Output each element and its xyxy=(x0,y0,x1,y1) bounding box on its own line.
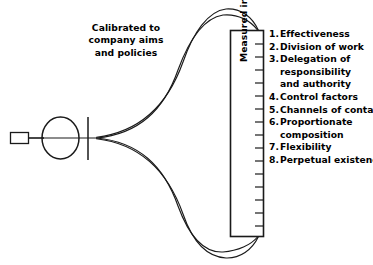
list-item-text: Delegation of responsibility and authori… xyxy=(280,53,373,91)
list-item-text: Proportionate composition xyxy=(280,116,373,141)
caption-line-3: and policies xyxy=(62,47,190,59)
list-item-text: Perpetual existence xyxy=(280,154,373,167)
list-item: 4. Control factors xyxy=(269,91,373,104)
list-item-text: Channels of contact xyxy=(280,104,373,117)
list-item-number: 7. xyxy=(269,141,280,154)
list-item-text: Effectiveness xyxy=(280,28,373,41)
list-item: 1. Effectiveness xyxy=(269,28,373,41)
list-item-text: Control factors xyxy=(280,91,373,104)
list-item-number: 2. xyxy=(269,41,280,54)
list-item: 2. Division of work xyxy=(269,41,373,54)
diagram-canvas: Calibrated to company aims and policies … xyxy=(0,0,373,265)
list-item: 6. Proportionate composition xyxy=(269,116,373,141)
list-item-number: 8. xyxy=(269,154,280,167)
list-item-number: 5. xyxy=(269,104,280,117)
list-item-text: Division of work xyxy=(280,41,373,54)
list-item-number: 4. xyxy=(269,91,280,104)
objectives-list: 1. Effectiveness 2. Division of work 3. … xyxy=(269,28,373,167)
list-item: 3. Delegation of responsibility and auth… xyxy=(269,53,373,91)
caption-block: Calibrated to company aims and policies xyxy=(62,22,190,59)
input-terminal-rect xyxy=(11,133,29,144)
list-item-text: Flexibility xyxy=(280,141,373,154)
list-item: 5. Channels of contact xyxy=(269,104,373,117)
list-item-number: 3. xyxy=(269,53,280,66)
list-item-number: 1. xyxy=(269,28,280,41)
list-item-number: 6. xyxy=(269,116,280,129)
caption-line-1: Calibrated to xyxy=(62,22,190,34)
list-item: 8. Perpetual existence xyxy=(269,154,373,167)
caption-line-2: company aims xyxy=(62,34,190,46)
list-item: 7. Flexibility xyxy=(269,141,373,154)
measured-in-terms-of-objectives-label: Measured in terms of objectives xyxy=(237,0,251,62)
